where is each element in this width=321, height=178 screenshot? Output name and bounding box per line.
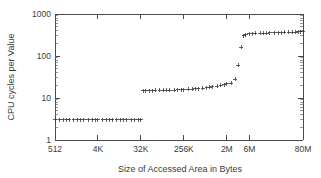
chart-figure: 11010010005124K32K256K2M6M80M Size of Ac… [0, 0, 321, 178]
data-point [210, 85, 214, 89]
data-point [272, 31, 276, 35]
data-point [153, 88, 157, 92]
data-point [110, 118, 114, 122]
x-tick-label: 2M [221, 144, 233, 154]
data-point [115, 118, 119, 122]
x-axis-title: Size of Accessed Area in Bytes [118, 164, 243, 174]
data-point [222, 83, 226, 87]
data-point [125, 118, 129, 122]
data-point [239, 45, 243, 49]
x-tick-label: 6M [244, 144, 256, 154]
data-point [219, 83, 223, 87]
data-point [58, 118, 62, 122]
data-point [67, 118, 71, 122]
data-point [168, 88, 172, 92]
data-point [301, 30, 305, 34]
data-point [201, 86, 205, 90]
data-point [96, 118, 100, 122]
data-point [287, 30, 291, 34]
data-point [158, 88, 162, 92]
data-point [208, 85, 212, 89]
data-point [182, 88, 186, 92]
y-tick-label: 1000 [32, 9, 51, 19]
x-tick-label: 4K [93, 144, 104, 154]
data-point [282, 30, 286, 34]
y-tick-label: 10 [42, 93, 52, 103]
data-point [186, 87, 190, 91]
data-point [196, 87, 200, 91]
data-point [139, 118, 143, 122]
data-point [205, 86, 209, 90]
data-point [225, 82, 229, 86]
data-point [258, 31, 262, 35]
data-point [268, 31, 272, 35]
data-point [144, 89, 148, 93]
data-point [215, 84, 219, 88]
data-point [82, 118, 86, 122]
y-axis-title: CPU cycles per Value [6, 34, 16, 121]
data-point [233, 77, 237, 81]
data-point [72, 118, 76, 122]
data-point [86, 118, 90, 122]
scatter-plot: 11010010005124K32K256K2M6M80M Size of Ac… [0, 0, 321, 178]
x-tick-label: 32K [133, 144, 148, 154]
x-tick-label: 80M [295, 144, 312, 154]
data-point [229, 81, 233, 85]
data-point [101, 118, 105, 122]
x-tick-label: 512 [48, 144, 62, 154]
data-point [129, 118, 133, 122]
x-tick-label: 256K [174, 144, 194, 154]
axis-tick-labels: 11010010005124K32K256K2M6M80M [32, 9, 311, 154]
data-markers [53, 30, 305, 122]
data-point [253, 31, 257, 35]
data-point [236, 63, 240, 67]
data-point [172, 88, 176, 92]
y-tick-label: 100 [37, 51, 51, 61]
data-point [53, 118, 57, 122]
